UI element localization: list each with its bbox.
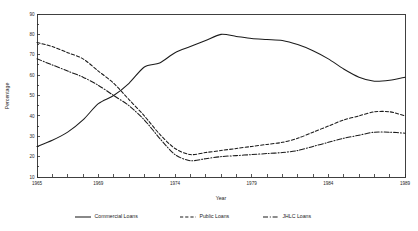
- x-tick-label: 1984: [323, 181, 334, 186]
- x-tick-label: 1979: [247, 181, 258, 186]
- y-tick-label: 30: [29, 134, 35, 139]
- y-tick-label: 70: [29, 52, 35, 57]
- y-tick-label: 80: [29, 32, 35, 37]
- line-chart: 102030405060708090 196519691974197919841…: [0, 0, 418, 231]
- x-axis-title: Year: [216, 195, 227, 201]
- legend-label-public-loans: Public Loans: [200, 213, 230, 219]
- y-tick-label: 50: [29, 93, 35, 98]
- x-tick-label: 1974: [170, 181, 181, 186]
- legend-label-commercial-loans: Commercial Loans: [95, 213, 139, 219]
- x-tick-label: 1989: [400, 181, 411, 186]
- y-tick-label: 10: [29, 175, 35, 180]
- y-tick-label: 40: [29, 114, 35, 119]
- x-tick-label: 1969: [93, 181, 104, 186]
- legend-label-jhlc-loans: JHLC Loans: [283, 213, 312, 219]
- y-tick-label: 60: [29, 73, 35, 78]
- chart-figure: 102030405060708090 196519691974197919841…: [0, 0, 418, 231]
- y-tick-label: 20: [29, 154, 35, 159]
- y-axis-title: Percentage: [4, 83, 10, 110]
- x-tick-label: 1965: [32, 181, 43, 186]
- y-tick-label: 90: [29, 12, 35, 17]
- chart-background: [0, 0, 418, 231]
